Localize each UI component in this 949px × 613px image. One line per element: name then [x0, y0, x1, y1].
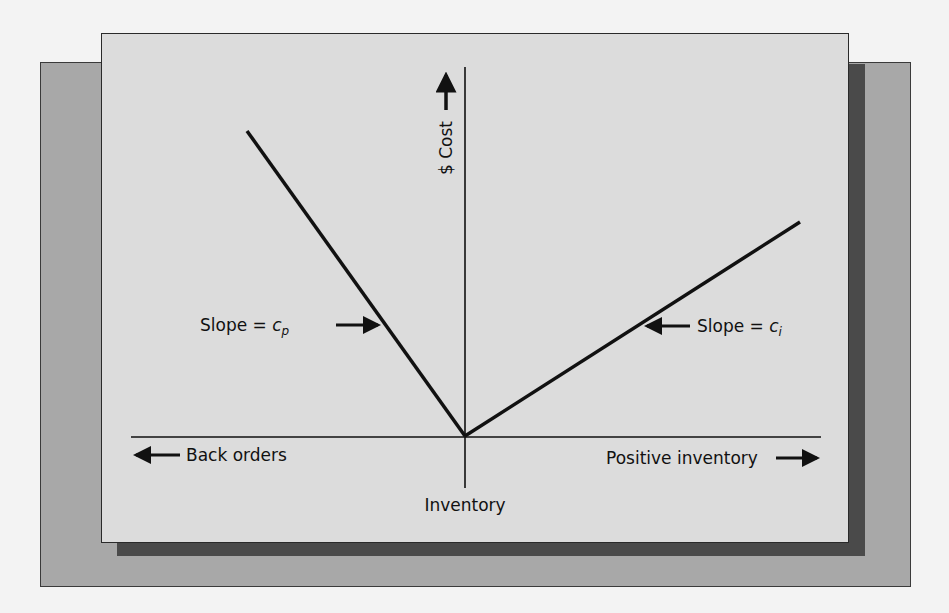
- cost-inventory-diagram: $ Cost Slope = cp Slope = ci Back orders…: [0, 0, 949, 613]
- backorder-cost-line: [247, 131, 465, 436]
- y-axis-label: $ Cost: [436, 121, 456, 175]
- positive-inventory-label: Positive inventory: [606, 448, 758, 468]
- left-slope-label: Slope = cp: [200, 315, 290, 338]
- right-slope-label: Slope = ci: [697, 316, 783, 339]
- back-orders-label: Back orders: [186, 445, 287, 465]
- x-axis-label: Inventory: [424, 495, 505, 515]
